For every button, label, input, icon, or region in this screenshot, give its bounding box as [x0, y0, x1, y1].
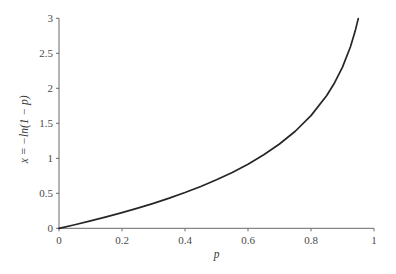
plot-area: 00.20.40.60.81 00.511.522.53 [39, 12, 377, 246]
y-tick-label: 0.5 [39, 187, 53, 199]
x-tick-label: 1 [371, 234, 377, 246]
y-tick-label: 2 [48, 82, 54, 94]
y-tick-label: 1 [48, 152, 54, 164]
x-tick-label: 0.6 [241, 234, 255, 246]
chart: 00.20.40.60.81 00.511.522.53 p x = −ln(1… [0, 0, 396, 274]
y-axis-title: x = −ln(1 − p) [18, 95, 31, 164]
x-axis-title: p [213, 248, 220, 261]
series-line [59, 19, 358, 229]
y-tick-label: 0 [48, 222, 54, 234]
y-tick-label: 2.5 [39, 47, 53, 59]
x-tick-label: 0.8 [304, 234, 318, 246]
x-tick-label: 0 [56, 234, 62, 246]
y-tick-label: 3 [48, 12, 54, 24]
y-tick-label: 1.5 [39, 117, 53, 129]
series-layer [59, 19, 358, 229]
x-tick-label: 0.4 [178, 234, 192, 246]
y-axis-ticks: 00.511.522.53 [39, 12, 59, 234]
x-axis-ticks: 00.20.40.60.81 [56, 228, 377, 246]
x-tick-label: 0.2 [115, 234, 129, 246]
